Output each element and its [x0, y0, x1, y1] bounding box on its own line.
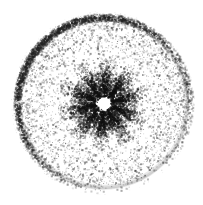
disc-specimen-image — [0, 0, 203, 205]
figure-root — [0, 0, 203, 205]
